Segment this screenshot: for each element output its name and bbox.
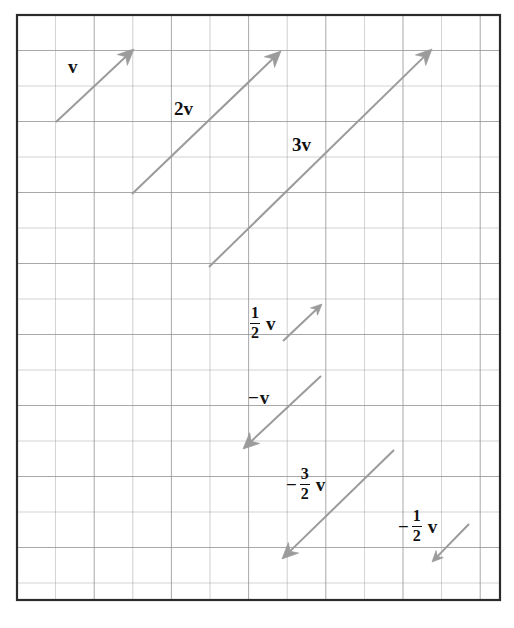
label-vector-symbol: v [302, 135, 312, 154]
label-fraction: 12 [412, 508, 422, 544]
fraction-denominator: 2 [250, 323, 260, 342]
label-vector-symbol: v [68, 57, 78, 76]
fraction-denominator: 2 [300, 484, 310, 503]
fraction-numerator: 1 [250, 305, 260, 323]
vector-arrow-half-v [283, 304, 322, 341]
vector-label-neg-half-v: −12v [398, 508, 437, 544]
vector-shaft [56, 55, 128, 122]
label-coefficient: 2 [174, 99, 184, 118]
label-sign: − [398, 517, 409, 536]
vector-arrow-3v [209, 49, 432, 267]
vector-shaft [209, 55, 426, 267]
fraction-numerator: 1 [412, 508, 422, 526]
vector-label-neg-v: −v [248, 388, 269, 407]
vector-label-3v: 3v [292, 135, 311, 154]
label-sign: − [248, 388, 259, 407]
label-coefficient: 3 [292, 135, 302, 154]
vector-shaft [436, 524, 469, 558]
vector-label-neg-three-halves-v: −32v [286, 466, 325, 502]
vector-label-2v: 2v [174, 99, 193, 118]
label-fraction: 12 [250, 305, 260, 341]
label-fraction: 32 [300, 466, 310, 502]
label-vector-symbol: v [260, 388, 270, 407]
label-vector-symbol: v [184, 99, 194, 118]
vector-arrow-neg-half-v [432, 524, 469, 562]
vector-shaft [132, 57, 275, 194]
fraction-denominator: 2 [412, 526, 422, 545]
label-vector-symbol: v [316, 475, 326, 494]
fraction-numerator: 3 [300, 466, 310, 484]
label-sign: − [286, 475, 297, 494]
vector-shaft [283, 308, 318, 341]
vector-label-half-v: 12v [248, 305, 276, 341]
label-vector-symbol: v [428, 517, 438, 536]
vector-label-v: v [68, 57, 78, 76]
vector-figure: v2v3v12v−v−32v−12v [0, 0, 514, 628]
vector-arrow-2v [132, 51, 281, 194]
label-vector-symbol: v [266, 314, 276, 333]
